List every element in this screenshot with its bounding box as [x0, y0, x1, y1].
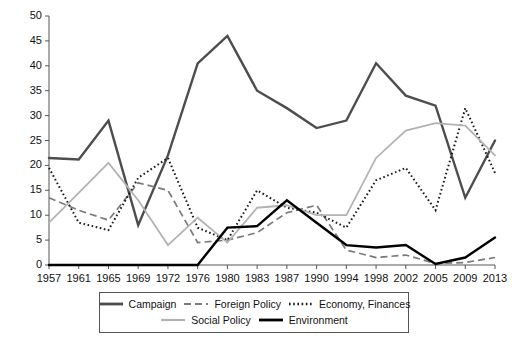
series-line — [49, 200, 495, 265]
chart-legend: CampaignForeign PolicyEconomy, FinancesS… — [99, 292, 409, 333]
y-tick-label: 30 — [8, 109, 42, 121]
y-tick-label: 5 — [8, 233, 42, 245]
series-line — [49, 108, 495, 240]
legend-label: Campaign — [129, 298, 177, 310]
legend-label: Economy, Finances — [319, 298, 410, 310]
legend-entry[interactable]: Campaign — [98, 298, 177, 310]
legend-row: Social PolicyEnvironment — [104, 312, 404, 328]
legend-swatch-icon — [160, 315, 186, 325]
y-tick-label: 15 — [8, 183, 42, 195]
y-tick-label: 35 — [8, 84, 42, 96]
x-tick-label: 2013 — [477, 272, 512, 284]
series-line — [49, 123, 495, 245]
legend-entry[interactable]: Environment — [258, 314, 348, 326]
data-series-group — [49, 36, 495, 265]
legend-label: Environment — [289, 314, 348, 326]
legend-entry[interactable]: Economy, Finances — [288, 298, 410, 310]
series-line — [49, 183, 495, 264]
legend-swatch-icon — [98, 299, 124, 309]
legend-swatch-icon — [288, 299, 314, 309]
legend-entry[interactable]: Foreign Policy — [183, 298, 281, 310]
legend-label: Social Policy — [191, 314, 251, 326]
y-tick-label: 10 — [8, 208, 42, 220]
y-tick-label: 45 — [8, 34, 42, 46]
y-tick-label: 40 — [8, 59, 42, 71]
y-tick-label: 0 — [8, 258, 42, 270]
axes-group — [45, 16, 495, 269]
legend-swatch-icon — [183, 299, 209, 309]
legend-swatch-icon — [258, 315, 284, 325]
legend-row: CampaignForeign PolicyEconomy, Finances — [104, 296, 404, 312]
y-tick-marks — [45, 16, 49, 265]
y-tick-label: 25 — [8, 134, 42, 146]
y-tick-label: 20 — [8, 158, 42, 170]
series-line — [49, 36, 495, 225]
legend-entry[interactable]: Social Policy — [160, 314, 251, 326]
y-tick-label: 50 — [8, 9, 42, 21]
legend-label: Foreign Policy — [214, 298, 281, 310]
